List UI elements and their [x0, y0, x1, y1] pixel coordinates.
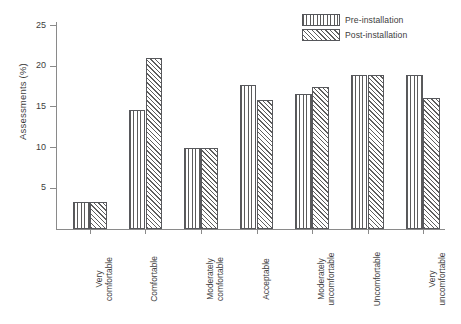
bar-pre-installation	[129, 110, 146, 229]
bar-post-installation	[423, 98, 440, 229]
bar-post-installation	[257, 100, 274, 229]
y-axis-tick-label: 25	[26, 21, 46, 30]
bar-group	[184, 22, 218, 229]
bar-group	[129, 22, 163, 229]
bar-group	[406, 22, 440, 229]
y-axis-tick-label: 15	[26, 102, 46, 111]
bar-post-installation	[368, 75, 385, 229]
x-axis-tick	[312, 230, 313, 234]
x-axis-tick	[423, 230, 424, 234]
x-axis-tick	[201, 230, 202, 234]
x-axis-category-label: Very uncomfortable	[428, 236, 447, 322]
bar-post-installation	[201, 148, 218, 229]
x-axis-tick	[257, 230, 258, 234]
bar-pre-installation	[240, 85, 257, 229]
x-axis-tick	[368, 230, 369, 234]
x-axis-category-label: Very comfortable	[95, 236, 114, 322]
x-axis-category-label: Moderately comfortable	[206, 236, 225, 322]
bar-group	[295, 22, 329, 229]
bar-post-installation	[90, 202, 107, 229]
bar-group	[73, 22, 107, 229]
bar-group	[240, 22, 274, 229]
x-axis-category-label: Uncomfortable	[373, 236, 383, 322]
x-axis-tick	[145, 230, 146, 234]
bar-pre-installation	[351, 75, 368, 229]
y-axis-tick-label: 20	[26, 61, 46, 70]
bar-group	[351, 22, 385, 229]
bar-pre-installation	[184, 148, 201, 229]
bar-groups	[56, 22, 445, 229]
x-axis-tick	[90, 230, 91, 234]
bar-post-installation	[146, 58, 163, 229]
x-axis-line	[56, 229, 445, 230]
y-axis-tick-label: 5	[26, 183, 46, 192]
bar-pre-installation	[295, 94, 312, 229]
x-axis-category-label: Moderately uncomfortable	[317, 236, 336, 322]
bar-pre-installation	[406, 75, 423, 229]
bar-chart-figure: Pre-installation Post-installation Asses…	[0, 0, 461, 324]
bar-post-installation	[312, 87, 329, 229]
x-axis-category-label: Comfortable	[150, 236, 160, 322]
bar-pre-installation	[73, 202, 90, 229]
y-axis-tick-label: 10	[26, 143, 46, 152]
x-axis-category-label: Acceptable	[262, 236, 272, 322]
